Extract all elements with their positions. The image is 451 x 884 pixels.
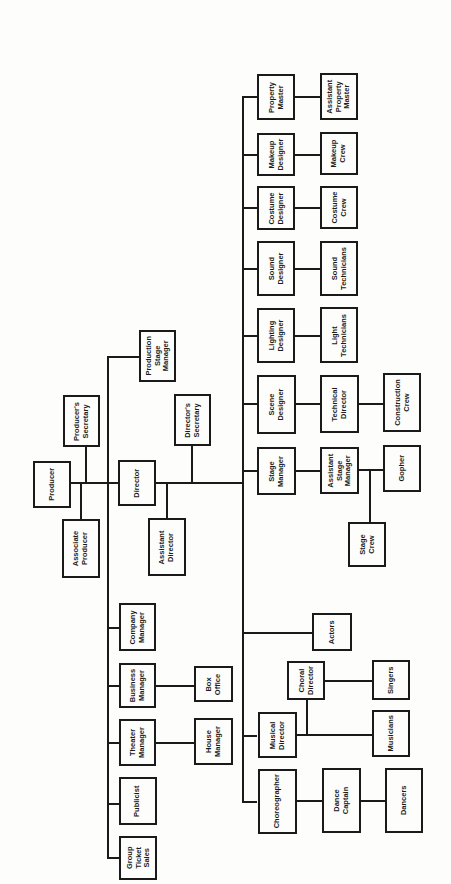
connector bbox=[107, 803, 119, 805]
node-label: Director bbox=[133, 469, 142, 498]
node-assistant-stage-manager: Assistant Stage Manager bbox=[320, 447, 359, 494]
connector bbox=[242, 154, 257, 156]
node-label: Group Ticket Sales bbox=[125, 847, 151, 870]
node-label: Publicist bbox=[134, 785, 143, 816]
node-label: Sound Technicians bbox=[331, 247, 348, 290]
node-actors: Actors bbox=[312, 613, 352, 651]
node-label: Director's Secretary bbox=[184, 403, 201, 438]
connector bbox=[242, 801, 257, 803]
node-label: Choreographer bbox=[273, 774, 282, 828]
org-chart: Producer Producer's Secretary Associate … bbox=[0, 0, 451, 884]
connector bbox=[156, 685, 194, 687]
node-theater-manager: Theater Manager bbox=[119, 719, 156, 766]
connector bbox=[242, 268, 257, 270]
node-label: Box Office bbox=[205, 673, 222, 694]
node-label: Actors bbox=[328, 620, 337, 644]
node-stage-manager: Stage Manager bbox=[257, 447, 296, 495]
node-label: House Manager bbox=[205, 726, 222, 757]
node-assistant-director: Assistant Director bbox=[148, 518, 186, 576]
node-label: Costume Designer bbox=[267, 192, 284, 224]
connector bbox=[325, 680, 373, 682]
node-publicist: Publicist bbox=[119, 777, 157, 825]
node-sound-designer: Sound Designer bbox=[257, 241, 295, 296]
node-production-stage-manager: Production Stage Manager bbox=[139, 330, 176, 382]
node-label: Assistant Director bbox=[158, 530, 175, 564]
connector bbox=[242, 207, 257, 209]
connector bbox=[166, 483, 168, 519]
node-sound-technicians: Sound Technicians bbox=[320, 241, 358, 296]
connector bbox=[358, 403, 384, 405]
node-dance-captain: Dance Captain bbox=[322, 768, 361, 833]
node-costume-designer: Costume Designer bbox=[257, 186, 295, 230]
node-label: Lighting Designer bbox=[267, 319, 284, 351]
node-label: Property Master bbox=[268, 82, 285, 113]
connector bbox=[242, 96, 257, 98]
node-label: Construction Crew bbox=[394, 379, 411, 426]
node-label: Makeup Designer bbox=[267, 138, 284, 170]
node-label: Company Manager bbox=[129, 610, 146, 644]
connector bbox=[242, 632, 312, 634]
connector bbox=[306, 698, 308, 735]
node-house-manager: House Manager bbox=[194, 718, 233, 765]
node-label: Dance Captain bbox=[333, 787, 350, 815]
node-label: Assistant Property Master bbox=[326, 80, 352, 114]
connector bbox=[358, 469, 384, 471]
node-associate-producer: Associate Producer bbox=[62, 519, 100, 578]
node-label: Technical Director bbox=[331, 387, 348, 421]
node-label: Producer's Secretary bbox=[73, 402, 90, 441]
node-label: Light Technicians bbox=[331, 314, 348, 357]
node-assistant-property-master: Assistant Property Master bbox=[320, 73, 358, 120]
connector bbox=[295, 268, 321, 270]
connector bbox=[85, 447, 87, 483]
node-technical-director: Technical Director bbox=[320, 375, 359, 433]
node-costume-crew: Costume Crew bbox=[320, 186, 358, 229]
node-stage-crew: Stage Crew bbox=[348, 522, 386, 567]
node-label: Stage Manager bbox=[268, 456, 285, 487]
node-property-master: Property Master bbox=[257, 74, 295, 120]
node-label: Scene Designer bbox=[268, 388, 285, 420]
node-label: Choral Director bbox=[297, 666, 314, 695]
connector bbox=[155, 482, 244, 484]
connector bbox=[295, 96, 321, 98]
node-label: Gopher bbox=[398, 455, 407, 482]
connector bbox=[295, 154, 321, 156]
connector bbox=[295, 207, 321, 209]
node-box-office: Box Office bbox=[194, 666, 233, 702]
node-label: Singers bbox=[387, 666, 396, 694]
node-dancers: Dancers bbox=[385, 768, 423, 833]
connector bbox=[295, 403, 321, 405]
node-label: Dancers bbox=[400, 786, 409, 816]
node-label: Associate Producer bbox=[73, 531, 90, 566]
connector bbox=[242, 470, 257, 472]
node-directors-secretary: Director's Secretary bbox=[174, 394, 211, 446]
node-lighting-designer: Lighting Designer bbox=[257, 308, 295, 363]
connector bbox=[107, 742, 119, 744]
node-choreographer: Choreographer bbox=[258, 769, 297, 834]
node-group-ticket-sales: Group Ticket Sales bbox=[119, 836, 157, 880]
node-construction-crew: Construction Crew bbox=[383, 373, 421, 432]
connector bbox=[70, 482, 118, 484]
connector bbox=[242, 335, 257, 337]
connector bbox=[107, 685, 119, 687]
node-makeup-crew: Makeup Crew bbox=[320, 132, 358, 175]
node-choral-director: Choral Director bbox=[287, 661, 325, 700]
node-label: Assistant Stage Manager bbox=[327, 454, 353, 488]
connector bbox=[242, 735, 257, 737]
node-business-manager: Business Manager bbox=[119, 663, 156, 708]
connector bbox=[191, 445, 193, 483]
node-producers-secretary: Producer's Secretary bbox=[63, 395, 100, 447]
connector bbox=[242, 403, 257, 405]
connector bbox=[295, 470, 321, 472]
node-producer: Producer bbox=[33, 461, 71, 508]
connector bbox=[107, 356, 109, 858]
node-label: Sound Designer bbox=[267, 252, 284, 284]
connector bbox=[296, 800, 323, 802]
node-musical-director: Musical Director bbox=[258, 712, 297, 758]
node-makeup-designer: Makeup Designer bbox=[257, 133, 295, 176]
connector bbox=[80, 483, 82, 519]
node-label: Costume Crew bbox=[331, 191, 348, 223]
node-singers: Singers bbox=[372, 660, 410, 700]
node-director: Director bbox=[118, 460, 156, 506]
node-gopher: Gopher bbox=[383, 445, 421, 492]
node-scene-designer: Scene Designer bbox=[257, 375, 296, 434]
